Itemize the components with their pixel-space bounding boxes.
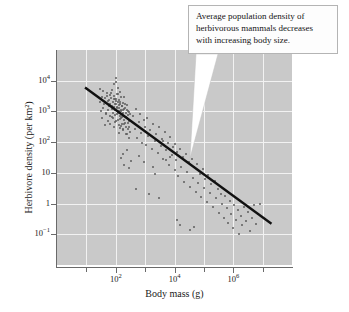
callout-line-2: herbivorous mammals decreases [196,23,331,35]
callout-leader-wedge [190,54,218,158]
annotation-callout-box: Average population density of herbivorou… [188,5,338,54]
callout-line-3: with increasing body size. [196,35,331,47]
scatter-plot-figure: 10410310210110−1102104106 Body mass (g) … [0,0,349,312]
callout-line-1: Average population density of [196,11,331,23]
